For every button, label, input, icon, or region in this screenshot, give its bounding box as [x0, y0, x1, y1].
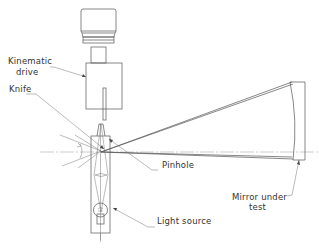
knife-blade — [103, 88, 106, 120]
optical-diagram: Kinematic drive Knife Pinhole Mirror und… — [0, 0, 319, 248]
drive-neck — [91, 47, 106, 63]
kinematic-drive-box — [86, 63, 122, 109]
label-mirror-under-test-1: Mirror under — [232, 192, 287, 202]
label-kinematic-drive-1: Kinematic — [8, 56, 52, 66]
reflected-rays — [60, 135, 101, 168]
label-mirror-under-test-2: test — [249, 202, 267, 212]
motor-head — [81, 9, 116, 43]
label-kinematic-drive-2: drive — [16, 67, 39, 77]
label-pinhole: Pinhole — [162, 160, 194, 170]
internal-beam — [94, 124, 108, 240]
label-knife: Knife — [9, 84, 32, 94]
label-light-source: Light source — [157, 216, 212, 226]
light-cone — [101, 82, 293, 159]
mirror-under-test — [290, 82, 305, 160]
